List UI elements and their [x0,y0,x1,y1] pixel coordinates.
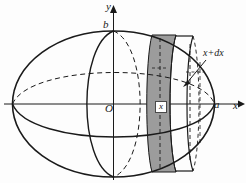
figure-container: y b O a x x+dx x [0,0,246,183]
slice-left-label: x [155,101,167,113]
leader-arrow-x-plus-dx [183,60,206,87]
semi-minor-axis-label: b [103,19,109,30]
origin-label: O [105,103,113,114]
ellipsoid-diagram-svg [0,0,246,183]
slice-right-label: x+dx [203,48,224,58]
y-axis-label: y [106,1,111,12]
x-axis-arrowhead [238,101,245,108]
x-axis-label: x [233,100,238,111]
semi-major-axis-label: a [214,99,220,110]
y-axis-arrowhead [110,5,117,13]
